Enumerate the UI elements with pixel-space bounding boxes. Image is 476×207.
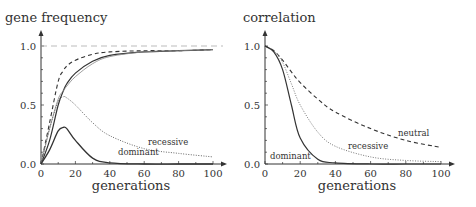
- y-tick-label: 0.0: [244, 159, 260, 170]
- series-annotation: dominant: [118, 147, 159, 157]
- x-axis-title: generations: [318, 178, 396, 193]
- panel-1: 0204060801000.00.51.0gene frequencygener…: [5, 10, 227, 193]
- x-tick-label: 100: [203, 168, 222, 179]
- x-tick-label: 20: [294, 168, 307, 179]
- x-tick-label: 20: [69, 168, 82, 179]
- x-axis-title: generations: [92, 178, 170, 193]
- y-tick-label: 0.5: [244, 100, 260, 111]
- chart-figure: 0204060801000.00.51.0gene frequencygener…: [0, 0, 476, 207]
- y-axis-title: gene frequency: [5, 10, 108, 25]
- x-tick-label: 0: [262, 168, 268, 179]
- series-annotation: recessive: [348, 141, 388, 151]
- series-annotation: recessive: [148, 137, 188, 147]
- x-tick-label: 80: [399, 168, 412, 179]
- x-axis-arrow-icon: [221, 162, 227, 167]
- series-annotation: neutral: [398, 128, 430, 138]
- panel-2: 0204060801000.00.51.0correlationgenerati…: [243, 10, 455, 193]
- y-tick-label: 0.0: [20, 159, 36, 170]
- y-axis-arrow-icon: [263, 30, 268, 36]
- series-annotation: dominant: [270, 151, 311, 161]
- y-tick-label: 1.0: [244, 41, 260, 52]
- y-axis-title: correlation: [243, 10, 316, 25]
- x-tick-label: 0: [38, 168, 44, 179]
- y-tick-label: 0.5: [20, 100, 36, 111]
- x-axis-arrow-icon: [449, 162, 455, 167]
- y-axis-arrow-icon: [39, 30, 44, 36]
- x-tick-label: 80: [172, 168, 185, 179]
- x-tick-label: 100: [431, 168, 450, 179]
- y-tick-label: 1.0: [20, 41, 36, 52]
